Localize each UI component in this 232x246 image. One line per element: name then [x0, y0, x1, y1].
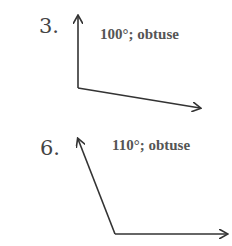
angle-100-icon — [78, 16, 200, 108]
angle-diagrams — [0, 0, 232, 246]
angle-110-icon — [78, 139, 227, 234]
